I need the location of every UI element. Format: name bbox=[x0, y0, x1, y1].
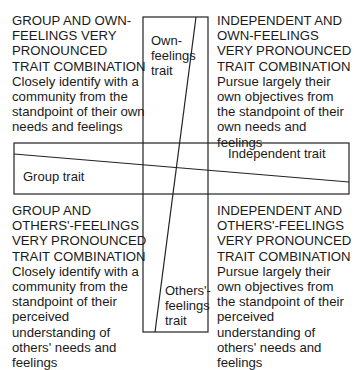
description-line: understanding of bbox=[217, 325, 351, 340]
independent-trait-label: Independent trait bbox=[228, 146, 326, 161]
heading-line: TRAIT COMBINATION bbox=[217, 59, 351, 74]
heading-line: FEELINGS VERY bbox=[12, 28, 146, 43]
description-line: community from the bbox=[12, 89, 146, 104]
description-line: standpoint of their own bbox=[12, 104, 146, 119]
label-line: Others'- bbox=[165, 283, 211, 298]
description-line: Closely identify with a bbox=[12, 264, 146, 279]
heading-line: TRAIT COMBINATION bbox=[12, 59, 146, 74]
description-line: others' needs and bbox=[217, 340, 351, 355]
label-line: feelings bbox=[151, 48, 196, 63]
label-line: feelings bbox=[165, 298, 211, 313]
heading-line: VERY PRONOUNCED bbox=[12, 233, 146, 248]
description-line: needs and feelings bbox=[12, 119, 146, 134]
heading-line: INDEPENDENT AND bbox=[217, 13, 351, 28]
description-line: community from the bbox=[12, 279, 146, 294]
description-line: perceived bbox=[217, 309, 351, 324]
heading-line: INDEPENDENT AND bbox=[217, 203, 351, 218]
heading-line: TRAIT COMBINATION bbox=[12, 249, 146, 264]
label-line: trait bbox=[151, 63, 196, 78]
heading-line: OTHERS'-FEELINGS bbox=[217, 218, 351, 233]
description-line: the standpoint of their bbox=[217, 104, 351, 119]
own-feelings-trait-label: Own- feelings trait bbox=[151, 33, 196, 78]
others-feelings-trait-label: Others'- feelings trait bbox=[165, 283, 211, 328]
quadrant-group-others-feelings: GROUP AND OTHERS'-FEELINGS VERY PRONOUNC… bbox=[12, 203, 146, 370]
heading-line: PRONOUNCED bbox=[12, 43, 146, 58]
description-line: the standpoint of their bbox=[217, 294, 351, 309]
quadrant-group-own-feelings: GROUP AND OWN- FEELINGS VERY PRONOUNCED … bbox=[12, 13, 146, 135]
description-line: perceived bbox=[12, 309, 146, 324]
description-line: understanding of bbox=[12, 325, 146, 340]
description-line: own objectives from bbox=[217, 89, 351, 104]
heading-line: VERY PRONOUNCED bbox=[217, 43, 351, 58]
description-line: own needs and bbox=[217, 119, 351, 134]
description-line: others' needs and bbox=[12, 340, 146, 355]
description-line: standpoint of their bbox=[12, 294, 146, 309]
description-line: Closely identify with a bbox=[12, 74, 146, 89]
group-trait-label: Group trait bbox=[23, 169, 84, 184]
label-line: trait bbox=[165, 313, 211, 328]
heading-line: OTHERS'-FEELINGS bbox=[12, 218, 146, 233]
description-line: Pursue largely their bbox=[217, 264, 351, 279]
heading-line: VERY PRONOUNCED bbox=[217, 233, 351, 248]
description-line: feelings bbox=[217, 355, 351, 370]
description-line: Pursue largely their bbox=[217, 74, 351, 89]
heading-line: TRAIT COMBINATION bbox=[217, 249, 351, 264]
heading-line: OWN-FEELINGS bbox=[217, 28, 351, 43]
description-line: feelings bbox=[12, 355, 146, 370]
label-line: Own- bbox=[151, 33, 196, 48]
quadrant-independent-others-feelings: INDEPENDENT AND OTHERS'-FEELINGS VERY PR… bbox=[217, 203, 351, 370]
heading-line: GROUP AND bbox=[12, 203, 146, 218]
quadrant-independent-own-feelings: INDEPENDENT AND OWN-FEELINGS VERY PRONOU… bbox=[217, 13, 351, 150]
heading-line: GROUP AND OWN- bbox=[12, 13, 146, 28]
description-line: own objectives from bbox=[217, 279, 351, 294]
